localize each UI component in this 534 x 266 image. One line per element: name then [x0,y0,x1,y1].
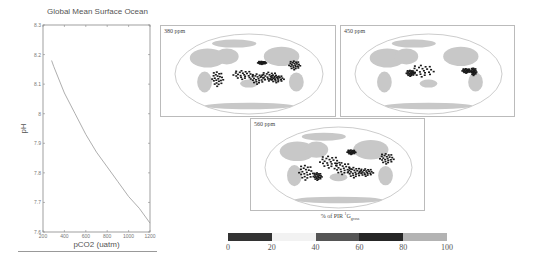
map-label: 450 ppm [344,28,365,34]
y-axis-label: pH [19,123,28,133]
ph-curve [52,61,150,224]
y-tick-label: 7.9 [34,140,41,146]
colorbar-bin [316,233,360,241]
colorbar-tick-label: 80 [399,243,407,252]
x-tick-label: 1000 [123,233,134,239]
y-tick-label: 7.8 [34,170,41,176]
map-label: 560 ppm [254,121,275,127]
x-tick-label: 600 [82,233,91,239]
colorbar-tick-label: 60 [355,243,363,252]
divider-line [18,251,157,252]
y-tick-label: 7.6 [34,229,41,235]
ph-line-chart: 200400600800100012007.67.77.87.988.18.28… [0,0,160,266]
colorbar-caption: % of PIR 1Ggross [290,211,390,221]
world-map-560 [251,119,426,212]
colorbar-tick-label: 0 [226,243,230,252]
colorbar-tick-label: 20 [268,243,276,252]
colorbar [228,233,447,241]
axes-frame [43,25,150,232]
world-map-380 [161,26,337,118]
colorbar-bin [359,233,403,241]
y-tick-label: 8.2 [34,52,41,58]
map-label: 380 ppm [164,28,185,34]
x-tick-label: 400 [60,233,69,239]
caption-sub: gross [351,216,359,221]
map-panel-450: 450 ppm [340,25,515,117]
colorbar-tick-label: 100 [441,243,453,252]
plot-area: 200400600800100012007.67.77.87.988.18.28… [19,22,156,249]
colorbar-bin [272,233,316,241]
map-panel-560: 560 ppm [250,118,425,211]
y-tick-label: 8.3 [34,22,41,28]
x-tick-label: 1200 [144,233,155,239]
y-tick-label: 8 [38,111,41,117]
colorbar-bin [228,233,272,241]
map-panel-380: 380 ppm [160,25,336,117]
x-axis-label: pCO2 (uatm) [73,240,120,249]
y-tick-label: 8.1 [34,81,41,87]
colorbar-tick-label: 40 [312,243,320,252]
world-map-450 [341,26,516,118]
x-tick-label: 800 [103,233,112,239]
y-tick-label: 7.7 [34,199,41,205]
colorbar-bin [403,233,447,241]
caption-text: % of PIR [321,213,345,219]
